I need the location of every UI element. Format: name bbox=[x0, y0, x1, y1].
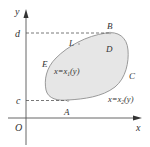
upper-bound-label: d bbox=[15, 28, 21, 39]
point-b-label: B bbox=[107, 21, 113, 31]
y-axis-arrow-icon bbox=[24, 9, 29, 18]
point-c-label: C bbox=[129, 71, 136, 81]
lower-bound-label: c bbox=[16, 95, 21, 106]
point-e-label: E bbox=[41, 59, 48, 69]
right-curve-label: x=x2(y) bbox=[107, 94, 134, 105]
x-axis-arrow-icon bbox=[133, 116, 142, 121]
point-l-label: L bbox=[68, 38, 74, 48]
x-axis-label: x bbox=[135, 122, 141, 133]
left-curve-rhs: (y) bbox=[70, 66, 80, 76]
y-axis-label: y bbox=[14, 6, 20, 17]
region-d-label: D bbox=[105, 44, 113, 54]
point-b-marker bbox=[109, 32, 112, 35]
origin-label: O bbox=[15, 122, 22, 133]
region-diagram: y x O d c B L D E C A x=x1(y) x=x2(y) bbox=[0, 0, 150, 147]
right-curve-lhs: x=x bbox=[107, 94, 122, 104]
point-a-marker bbox=[67, 99, 70, 102]
point-a-label: A bbox=[63, 107, 70, 117]
point-l-marker bbox=[78, 43, 80, 45]
right-curve-rhs: (y) bbox=[124, 94, 134, 104]
left-curve-lhs: x=x bbox=[53, 66, 68, 76]
left-curve-label: x=x1(y) bbox=[53, 66, 80, 77]
